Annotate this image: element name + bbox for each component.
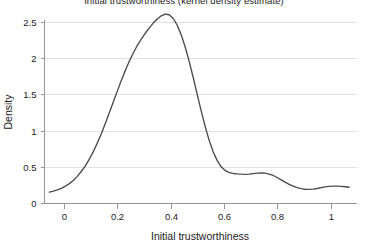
gridlines (45, 23, 358, 204)
x-tick-label: 0.8 (271, 211, 284, 222)
x-tick-label: 1 (329, 211, 334, 222)
y-tick-label: 2 (31, 53, 36, 64)
density-curve (49, 14, 349, 192)
y-axis-title: Density (2, 94, 14, 130)
x-tick-label: 0.4 (165, 211, 178, 222)
x-tick-label: 0.6 (218, 211, 231, 222)
y-tick-label: 1.5 (23, 89, 36, 100)
y-tick-label: 2.5 (23, 17, 36, 28)
x-tick-label: 0.2 (111, 211, 124, 222)
x-axis-ticks: 00.20.40.60.81 (62, 204, 334, 223)
x-axis-title: Initial trustworthiness (151, 230, 249, 242)
y-tick-label: 0 (31, 198, 36, 209)
y-axis-ticks: 00.511.522.5 (23, 17, 44, 209)
density-chart: Initial trustworthiness (kernel density … (0, 0, 368, 250)
x-tick-label: 0 (62, 211, 67, 222)
y-tick-label: 1 (31, 126, 36, 137)
y-tick-label: 0.5 (23, 162, 36, 173)
plot-area: 00.511.522.5 00.20.40.60.81 Initial trus… (0, 0, 368, 250)
